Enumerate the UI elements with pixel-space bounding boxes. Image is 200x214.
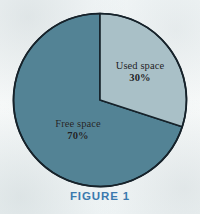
pie-label-used-space-percent: 30% bbox=[104, 72, 176, 84]
figure-caption: FIGURE 1 bbox=[0, 190, 200, 202]
pie-chart: Used space 30% Free space 70% bbox=[0, 0, 200, 192]
pie-label-free-space-name: Free space bbox=[38, 118, 118, 130]
pie-chart-svg bbox=[0, 0, 200, 192]
figure-page: Used space 30% Free space 70% FIGURE 1 bbox=[0, 0, 200, 214]
pie-label-used-space: Used space 30% bbox=[104, 60, 176, 84]
pie-label-free-space: Free space 70% bbox=[38, 118, 118, 142]
pie-label-used-space-name: Used space bbox=[104, 60, 176, 72]
pie-label-free-space-percent: 70% bbox=[38, 130, 118, 142]
